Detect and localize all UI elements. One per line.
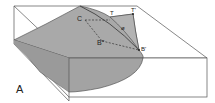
point-t-prime [132,13,134,15]
label-b-prime: B' [141,46,146,52]
label-c: C [77,15,82,22]
label-t: T [110,10,114,16]
label-t-prime: T' [131,7,136,13]
panel-label: A [16,84,23,95]
label-b-double-prime: B″ [97,39,104,46]
block-diagram [0,0,215,103]
point-b-prime [138,49,140,51]
label-phi: ø [121,25,125,31]
